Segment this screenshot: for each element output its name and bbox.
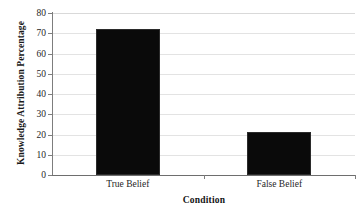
gridline <box>52 13 355 14</box>
y-axis-tick-label: 10 <box>0 150 46 160</box>
y-axis-tick-mark <box>48 135 52 136</box>
y-axis-tick-label: 30 <box>0 109 46 119</box>
y-axis-tick-label: 80 <box>0 8 46 18</box>
bar <box>96 29 160 175</box>
x-axis-category-label: False Belief <box>204 178 356 190</box>
y-axis-tick-label: 0 <box>0 170 46 180</box>
y-axis-tick-mark <box>48 74 52 75</box>
bar-chart: Knowledge Attribution Percentage 0102030… <box>0 0 364 214</box>
y-axis-tick-label: 70 <box>0 28 46 38</box>
y-axis-tick-label: 20 <box>0 130 46 140</box>
bar <box>247 132 311 175</box>
y-axis-tick-mark <box>48 13 52 14</box>
y-axis-tick-mark <box>48 114 52 115</box>
y-axis-tick-label: 60 <box>0 49 46 59</box>
x-axis-tick-mark <box>355 175 356 179</box>
y-axis-line <box>52 12 53 176</box>
y-axis-tick-labels: 01020304050607080 <box>0 0 46 214</box>
y-axis-tick-mark <box>48 175 52 176</box>
y-axis-tick-label: 50 <box>0 69 46 79</box>
x-axis-tick-mark <box>204 175 205 179</box>
y-axis-tick-label: 40 <box>0 89 46 99</box>
y-axis-tick-mark <box>48 33 52 34</box>
x-axis-category-label: True Belief <box>52 178 204 190</box>
y-axis-tick-mark <box>48 155 52 156</box>
y-axis-tick-mark <box>48 54 52 55</box>
x-axis-title: Condition <box>52 194 356 206</box>
y-axis-tick-mark <box>48 94 52 95</box>
